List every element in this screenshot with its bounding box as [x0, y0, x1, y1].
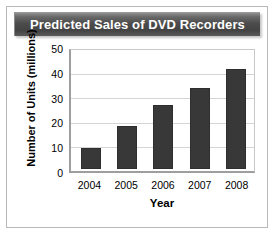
page-title: Predicted Sales of DVD Recorders	[30, 17, 245, 32]
y-tick-label: 50	[37, 43, 63, 55]
y-tick-label: 30	[37, 93, 63, 105]
x-tick-label: 2007	[184, 179, 216, 191]
bar-2007	[190, 88, 210, 169]
x-axis-label: Year	[69, 197, 255, 209]
chart-title-bar: Predicted Sales of DVD Recorders	[14, 12, 260, 36]
chart-figure: Predicted Sales of DVD Recorders Number …	[6, 6, 268, 228]
y-tick-label: 40	[37, 68, 63, 80]
plot-wrapper	[69, 49, 255, 173]
y-tick-label: 10	[37, 142, 63, 154]
x-tick-label: 2006	[147, 179, 179, 191]
x-axis-tick-labels: 2004 2005 2006 2007 2008	[71, 179, 255, 191]
x-tick-label: 2005	[110, 179, 142, 191]
y-tick-label: 0	[37, 167, 63, 179]
x-tick-label: 2004	[73, 179, 105, 191]
plot-area	[69, 49, 255, 173]
bar-series	[73, 50, 254, 169]
bar-2008	[226, 69, 246, 169]
x-tick-label: 2008	[221, 179, 253, 191]
y-tick-label: 20	[37, 117, 63, 129]
bar-2004	[81, 148, 101, 169]
bar-2005	[117, 126, 137, 169]
bar-2006	[153, 105, 173, 169]
